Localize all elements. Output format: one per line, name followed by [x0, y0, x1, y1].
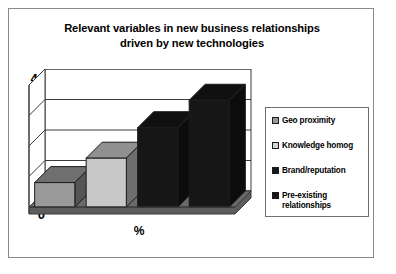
legend-label-geo-proximity: Geo proximity — [282, 116, 335, 126]
legend-item-knowledge-homog: Knowledge homog — [272, 141, 368, 151]
legend-label-brand-reputation: Brand/reputation — [282, 166, 346, 176]
legend-swatch-pre-existing-relationships — [272, 192, 279, 199]
legend-item-geo-proximity: Geo proximity — [272, 116, 368, 126]
chart-title: Relevant variables in new business relat… — [9, 21, 375, 50]
chart-title-line-1: Relevant variables in new business relat… — [64, 22, 320, 34]
chart-frame: Relevant variables in new business relat… — [8, 8, 374, 258]
legend-swatch-brand-reputation — [272, 167, 279, 174]
legend-swatch-knowledge-homog — [272, 142, 279, 149]
legend-item-pre-existing-relationships: Pre-existing relationships — [272, 191, 368, 210]
bar-3 — [138, 112, 194, 207]
legend-label-pre-existing-relationships: Pre-existing relationships — [282, 191, 331, 210]
chart-legend: Geo proximity Knowledge homog Brand/repu… — [265, 107, 369, 217]
x-axis-label: % — [69, 224, 209, 238]
bar-4 — [189, 84, 245, 207]
legend-swatch-geo-proximity — [272, 117, 279, 124]
bar-chart-svg — [27, 69, 255, 219]
bar-2 — [86, 142, 142, 207]
legend-label-knowledge-homog: Knowledge homog — [282, 141, 353, 151]
chart-title-line-2: driven by new technologies — [9, 36, 375, 51]
legend-item-brand-reputation: Brand/reputation — [272, 166, 368, 176]
plot-area — [27, 69, 255, 219]
